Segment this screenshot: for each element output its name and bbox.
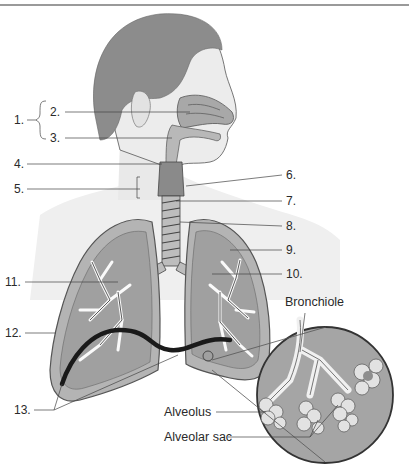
label-alveolar-sac: Alveolar sac [164,430,232,444]
label-bronchiole: Bronchiole [285,295,344,309]
label-9: 9. [286,243,296,257]
label-5: 5. [14,182,24,196]
label-12: 12. [5,326,22,340]
respiratory-system-illustration [0,0,409,466]
label-3: 3. [50,131,60,145]
label-10: 10. [286,267,303,281]
label-8: 8. [286,219,296,233]
larynx [158,162,184,196]
label-1: 1. [14,113,24,127]
trachea [162,196,180,266]
label-11: 11. [5,275,21,289]
label-6: 6. [286,168,296,182]
label-13: 13. [14,403,31,417]
label-7: 7. [286,194,296,208]
label-2: 2. [50,105,60,119]
label-alveolus: Alveolus [164,405,211,419]
label-4: 4. [14,157,24,171]
